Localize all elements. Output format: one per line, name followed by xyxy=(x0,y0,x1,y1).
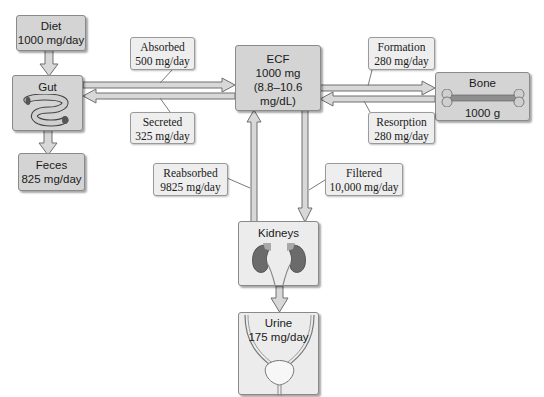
filtered-label: Filtered 10,000 mg/day xyxy=(325,163,403,196)
reabsorbed-pointer xyxy=(227,178,250,188)
reabsorbed-label: Reabsorbed 9825 mg/day xyxy=(153,163,228,196)
diet-title: Diet xyxy=(17,19,85,33)
bone-title: Bone xyxy=(436,76,529,90)
filtered-label-title: Filtered xyxy=(326,166,402,180)
gut-title: Gut xyxy=(13,80,82,94)
absorbed-pointer xyxy=(160,70,172,83)
diet-value: 1000 mg/day xyxy=(17,33,85,47)
resorption-label-title: Resorption xyxy=(369,115,434,129)
diet-node: Diet 1000 mg/day xyxy=(16,15,86,51)
secreted-pointer xyxy=(160,98,170,112)
reabsorbed-label-value: 9825 mg/day xyxy=(154,180,227,194)
absorbed-label-title: Absorbed xyxy=(131,40,194,54)
kidneys-icon xyxy=(249,241,309,285)
secreted-label: Secreted 325 mg/day xyxy=(130,112,195,144)
ecf-title: ECF xyxy=(236,52,320,66)
intestine-icon xyxy=(23,94,73,128)
absorbed-arrow xyxy=(83,78,235,92)
kidneys-title: Kidneys xyxy=(239,226,318,240)
gut-node: Gut xyxy=(12,75,83,131)
formation-label: Formation 280 mg/day xyxy=(368,37,435,70)
secreted-label-title: Secreted xyxy=(131,115,194,129)
absorbed-label-value: 500 mg/day xyxy=(131,54,194,68)
formation-arrow xyxy=(320,81,435,95)
resorption-pointer xyxy=(364,101,370,112)
bone-node: Bone 1000 g xyxy=(435,72,530,121)
diet-to-gut-arrow xyxy=(40,50,58,76)
urine-title: Urine xyxy=(239,316,318,330)
urine-node: Urine 175 mg/day xyxy=(238,312,319,395)
bone-value: 1000 g xyxy=(436,106,529,120)
secreted-label-value: 325 mg/day xyxy=(131,129,194,143)
calcium-balance-diagram: .ar { fill:#d8d8d8; stroke:#6e6e6e; stro… xyxy=(0,0,544,397)
reabsorbed-arrow xyxy=(247,110,261,222)
gut-to-feces-arrow xyxy=(39,130,57,155)
feces-title: Feces xyxy=(19,158,84,172)
resorption-label: Resorption 280 mg/day xyxy=(368,112,435,144)
absorbed-label: Absorbed 500 mg/day xyxy=(130,37,195,70)
bone-icon xyxy=(441,89,525,107)
kidneys-node: Kidneys xyxy=(238,221,319,286)
ecf-node: ECF 1000 mg (8.8–10.6 mg/dL) xyxy=(235,45,321,111)
secreted-arrow xyxy=(83,89,235,103)
filtered-pointer xyxy=(309,180,325,190)
kidneys-to-urine-arrow xyxy=(271,286,288,312)
filtered-arrow xyxy=(298,110,312,222)
feces-node: Feces 825 mg/day xyxy=(18,153,85,191)
formation-pointer xyxy=(368,70,372,86)
resorption-label-value: 280 mg/day xyxy=(369,129,434,143)
resorption-arrow xyxy=(320,92,435,106)
formation-label-title: Formation xyxy=(369,40,434,54)
reabsorbed-label-title: Reabsorbed xyxy=(154,166,227,180)
ecf-value: 1000 mg xyxy=(236,66,320,80)
filtered-label-value: 10,000 mg/day xyxy=(326,180,402,194)
formation-label-value: 280 mg/day xyxy=(369,54,434,68)
ecf-range: (8.8–10.6 mg/dL) xyxy=(236,80,320,108)
urine-value: 175 mg/day xyxy=(239,330,318,344)
feces-value: 825 mg/day xyxy=(19,172,84,186)
